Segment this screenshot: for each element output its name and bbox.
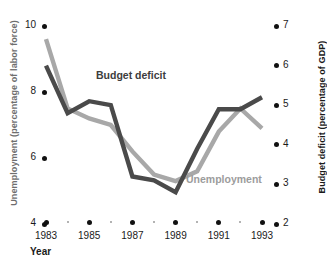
x-axis-tick-dot-major [173,220,178,225]
x-axis-tick-dot-minor [67,221,69,223]
y-axis-right-tick-dot [274,103,279,108]
y-axis-left-title: Unemployment (percentage of labor force) [9,13,19,213]
y-axis-right-tick-dot [274,222,279,227]
y-axis-left-tick-dot [42,156,47,161]
x-axis-tick-dot-major [216,220,221,225]
y-axis-right-tick-label: 2 [283,217,297,228]
y-axis-left-tick-dot [42,24,47,29]
y-axis-left-tick-label: 4 [16,217,36,228]
x-axis-tick-dot-major [260,220,265,225]
y-axis-right-tick-label: 7 [283,19,297,30]
y-axis-left-tick-label: 6 [16,151,36,162]
y-axis-right-tick-label: 3 [283,177,297,188]
y-axis-right-tick-dot [274,182,279,187]
x-axis-tick-label: 1987 [112,230,152,241]
x-axis-tick-dot-major [87,220,92,225]
series-label-budget-deficit: Budget deficit [96,69,166,81]
x-axis-tick-dot-minor [153,221,155,223]
x-axis-tick-label: 1993 [242,230,282,241]
x-axis-title: Year [30,246,51,257]
y-axis-left-tick-label: 8 [16,85,36,96]
series-label-unemployment: Unemployment [186,173,262,185]
y-axis-left-tick-label: 10 [16,19,36,30]
x-axis-tick-label: 1991 [199,230,239,241]
x-axis-tick-label: 1989 [156,230,196,241]
y-axis-right-tick-label: 5 [283,98,297,109]
y-axis-right-title: Budget deficit (percentage of GDP) [317,17,327,217]
x-axis-tick-dot-major [44,220,49,225]
y-axis-right-tick-dot [274,24,279,29]
x-axis-tick-dot-minor [110,221,112,223]
y-axis-right-tick-label: 4 [283,138,297,149]
y-axis-left-tick-dot [42,90,47,95]
x-axis-tick-label: 1983 [26,230,66,241]
y-axis-right-tick-label: 6 [283,59,297,70]
x-axis-tick-label: 1985 [69,230,109,241]
x-axis-tick-dot-major [130,220,135,225]
